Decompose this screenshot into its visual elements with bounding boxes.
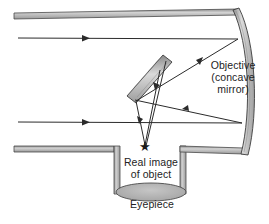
star-icon: ★ — [139, 140, 151, 153]
label-real-image-line1: Real image — [124, 156, 178, 168]
label-objective-line1: Objective — [211, 59, 256, 71]
label-eyepiece: Eyepiece — [130, 198, 174, 210]
label-objective-line2: (concave — [211, 71, 256, 83]
label-real-image-line2: of object — [124, 168, 178, 180]
label-objective: Objective (concave mirror) — [211, 59, 256, 96]
telescope-tube-top-wall — [14, 9, 238, 19]
telescope-diagram: ★ Objective (concave mirror) Real image … — [0, 0, 269, 224]
reflected-ray-lower — [135, 100, 242, 123]
label-objective-line3: mirror) — [211, 83, 256, 95]
label-real-image: Real image of object — [124, 156, 178, 180]
incoming-ray-upper — [18, 35, 238, 42]
diagram-svg — [0, 0, 269, 224]
incoming-ray-lower — [18, 119, 242, 126]
